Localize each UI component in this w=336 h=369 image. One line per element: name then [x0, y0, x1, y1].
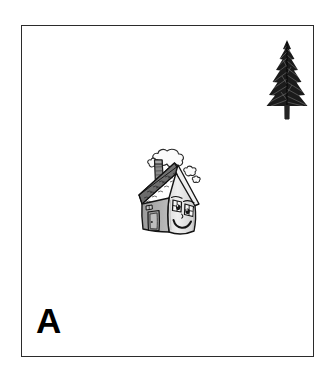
tree-trunk	[285, 105, 290, 120]
panel-label: A	[36, 303, 61, 338]
figure-panel: A	[21, 25, 314, 357]
cartoon-house-illustration	[129, 142, 209, 242]
house-side-window	[146, 205, 152, 210]
pine-tree-illustration	[266, 40, 308, 120]
house-door	[148, 211, 159, 231]
